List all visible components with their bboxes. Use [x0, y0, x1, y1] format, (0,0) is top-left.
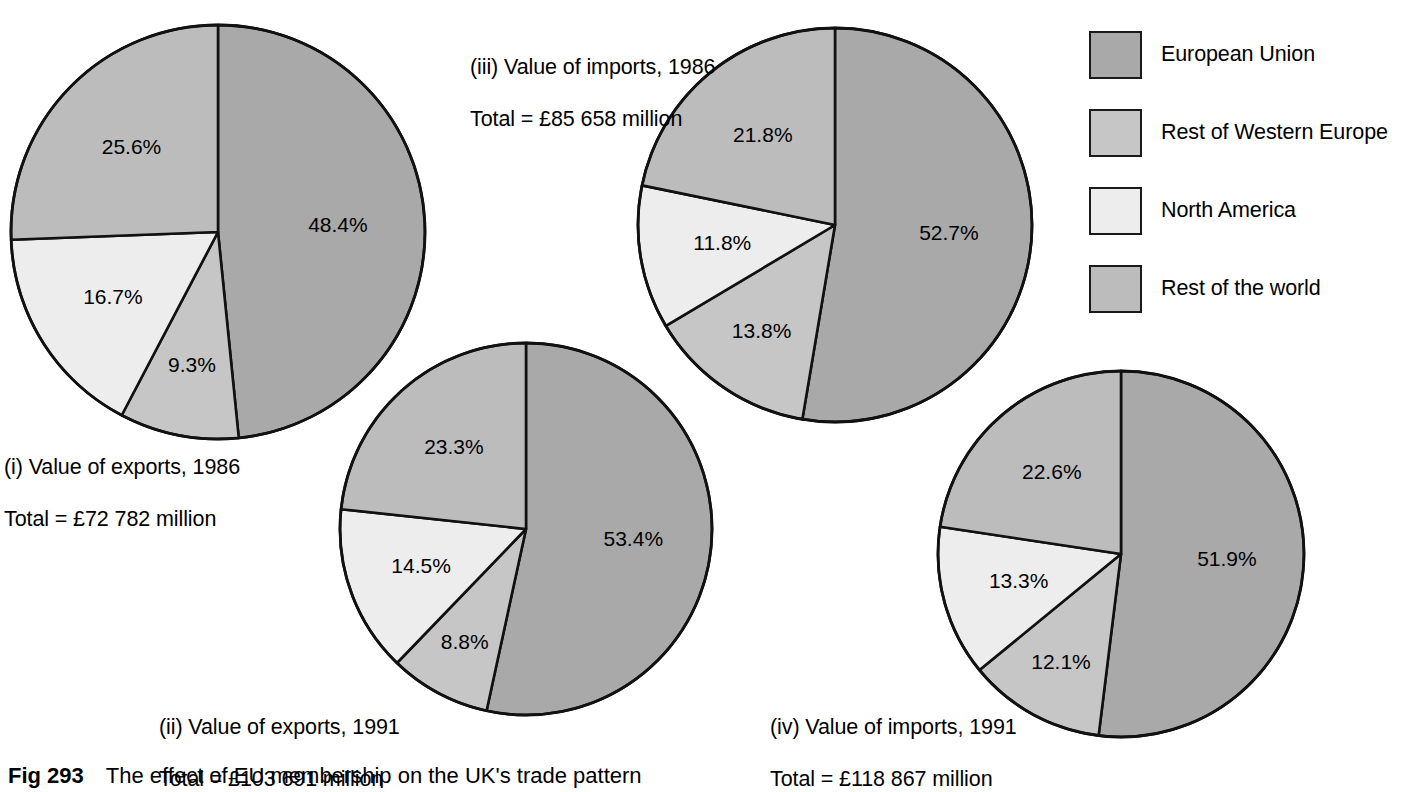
pie-chart-ii: 53.4%8.8%14.5%23.3%: [337, 340, 715, 718]
pie-slice-label: 13.3%: [989, 569, 1049, 592]
pie-slice-label: 48.4%: [308, 213, 368, 236]
pie-slice-label: 12.1%: [1031, 650, 1091, 673]
pie-slice: [802, 28, 1032, 422]
chart-legend: European Union Rest of Western Europe No…: [1089, 28, 1388, 340]
legend-item-rest-of-western-europe: Rest of Western Europe: [1089, 106, 1388, 159]
pie-slice-label: 16.7%: [83, 285, 143, 308]
legend-label-rest-of-western-europe: Rest of Western Europe: [1161, 120, 1388, 145]
pie-ii-title: (ii) Value of exports, 1991: [159, 714, 400, 740]
legend-swatch-icon: [1089, 265, 1142, 313]
pie-slice-label: 25.6%: [102, 135, 162, 158]
pie-chart-iv: 51.9%12.1%13.3%22.6%: [935, 368, 1307, 740]
pie-slice-label: 23.3%: [424, 435, 484, 458]
legend-swatch-icon: [1089, 109, 1142, 157]
pie-slice-label: 13.8%: [732, 319, 792, 342]
figure-caption: Fig 293The effect of EU membership on th…: [8, 763, 642, 789]
pie-slice-label: 11.8%: [693, 231, 751, 254]
pie-slice-label: 8.8%: [441, 630, 489, 653]
pie-iv-caption: (iv) Value of imports, 1991 Total = £118…: [770, 688, 1017, 792]
pie-slice-label: 14.5%: [391, 554, 451, 577]
legend-swatch-icon: [1089, 31, 1142, 79]
figure-number: Fig 293: [8, 763, 84, 788]
pie-chart-ii-svg: 53.4%8.8%14.5%23.3%: [337, 340, 715, 718]
figure-caption-text: The effect of EU membership on the UK's …: [106, 763, 642, 788]
legend-label-north-america: North America: [1161, 198, 1296, 223]
pie-slice-label: 53.4%: [604, 527, 664, 550]
pie-slice-label: 22.6%: [1022, 460, 1082, 483]
pie-iii-title: (iii) Value of imports, 1986: [470, 54, 715, 80]
pie-iv-title: (iv) Value of imports, 1991: [770, 714, 1017, 740]
legend-item-european-union: European Union: [1089, 28, 1388, 81]
pie-chart-iv-svg: 51.9%12.1%13.3%22.6%: [935, 368, 1307, 740]
legend-item-rest-of-the-world: Rest of the world: [1089, 262, 1388, 315]
pie-slice-label: 9.3%: [168, 353, 216, 376]
pie-slice-label: 21.8%: [733, 123, 793, 146]
legend-label-rest-of-the-world: Rest of the world: [1161, 276, 1321, 301]
pie-slice-label: 52.7%: [919, 221, 979, 244]
pie-slice: [11, 25, 218, 240]
pie-iii-caption: (iii) Value of imports, 1986 Total = £85…: [470, 28, 715, 158]
legend-item-north-america: North America: [1089, 184, 1388, 237]
pie-iii-total: Total = £85 658 million: [470, 106, 715, 132]
legend-swatch-icon: [1089, 187, 1142, 235]
pie-i-title: (i) Value of exports, 1986: [4, 454, 240, 480]
pie-i-caption: (i) Value of exports, 1986 Total = £72 7…: [4, 428, 240, 558]
pie-iv-total: Total = £118 867 million: [770, 766, 1017, 792]
pie-i-total: Total = £72 782 million: [4, 506, 240, 532]
legend-label-european-union: European Union: [1161, 42, 1315, 67]
pie-slice-label: 51.9%: [1197, 547, 1257, 570]
